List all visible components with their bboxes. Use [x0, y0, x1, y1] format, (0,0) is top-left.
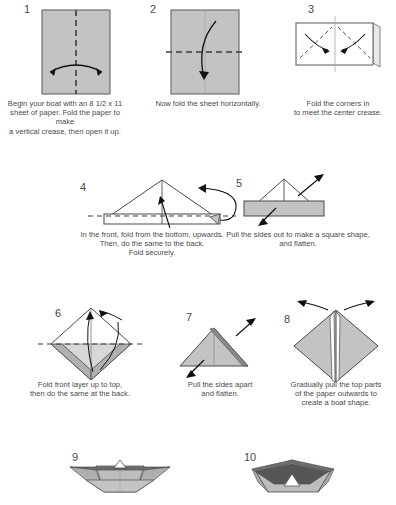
step-10-diagram	[200, 448, 370, 502]
step-3-caption: Fold the corners in to meet the center c…	[280, 99, 396, 117]
step-1: 1 Begin your boat with an 8 1/2 x 11 she…	[0, 0, 130, 130]
step-8: 8 Gradually pull the top parts of the pa…	[276, 296, 396, 406]
step-9-diagram	[40, 448, 200, 502]
step-1-diagram	[0, 2, 130, 97]
step-7-diagram	[160, 300, 280, 380]
step-3-diagram	[280, 10, 396, 95]
step-9: 9	[40, 448, 200, 505]
step-2-diagram	[142, 2, 274, 97]
instruction-sheet: 1 Begin your boat with an 8 1/2 x 11 she…	[0, 0, 396, 505]
step-7-caption: Pull the sides apart and flatten.	[160, 380, 280, 398]
step-3: 3 Fold the corners in to meet the center…	[280, 0, 396, 130]
step-5-caption: Pull the sides out to make a square shap…	[200, 230, 396, 248]
step-6-caption: Fold front layer up to top, then do the …	[0, 380, 160, 398]
step-6: 6 Fold front layer up to top, then do th…	[0, 296, 160, 406]
step-2-caption: Now fold the sheet horizontally.	[142, 99, 274, 108]
step-10: 10	[200, 448, 370, 505]
step-8-diagram	[276, 296, 396, 384]
step-1-caption: Begin your boat with an 8 1/2 x 11 sheet…	[0, 99, 130, 136]
step-6-diagram	[0, 300, 160, 384]
step-5: 5 Pull the sides out to make a square sh…	[200, 168, 396, 268]
step-2: 2 Now fold the sheet horizontally.	[142, 0, 274, 130]
step-5-diagram	[200, 168, 396, 228]
step-7: 7 Pull the sides apart and flatten.	[160, 296, 280, 406]
step-8-caption: Gradually pull the top parts of the pape…	[276, 380, 396, 408]
